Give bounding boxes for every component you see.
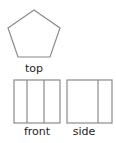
side-view-label: side [73,126,96,137]
front-view-outline [14,80,60,123]
front-view [14,80,60,123]
orthographic-views-diagram [0,0,116,143]
side-view [67,80,112,123]
top-view-pentagon [8,10,60,57]
front-view-label: front [24,126,50,137]
side-view-outline [67,80,112,123]
top-view-label: top [25,63,43,74]
